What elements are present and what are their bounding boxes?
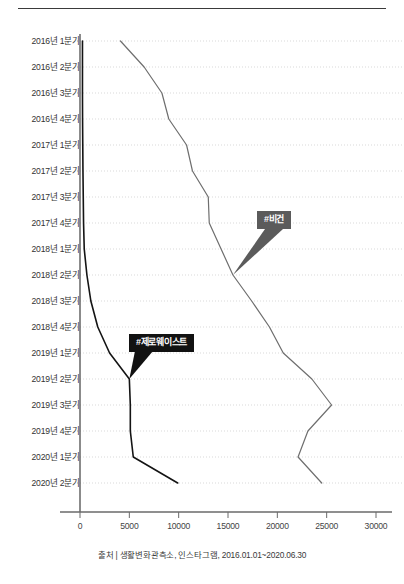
x-tick-label: 0 (78, 521, 83, 531)
x-tick-label: 25000 (315, 521, 338, 531)
x-tick-label: 10000 (167, 521, 190, 531)
series-line (82, 41, 177, 483)
series-line (120, 41, 331, 483)
vegan-callout-label[interactable]: #비건 (257, 211, 291, 229)
line-chart (0, 0, 404, 584)
zerowaste-callout-label[interactable]: #제로웨이스트 (129, 334, 194, 352)
x-tick-label: 5000 (120, 521, 138, 531)
x-tick-label: 30000 (365, 521, 388, 531)
x-tick-label: 15000 (217, 521, 240, 531)
x-tick-label: 20000 (266, 521, 289, 531)
chart-source-note: 출처 | 생활변화관측소, 인스타그램, 2016.01.01~2020.06.… (0, 548, 404, 560)
zerowaste-callout-tail (129, 351, 153, 379)
vegan-callout-tail (233, 229, 283, 275)
